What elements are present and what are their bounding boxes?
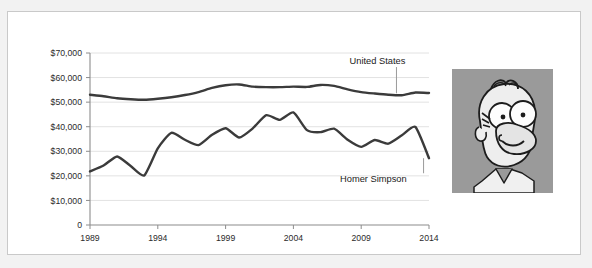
x-axis-labels: 198919941999200420092014	[80, 233, 438, 243]
y-axis-labels: 0$10,000$20,000$30,000$40,000$50,000$60,…	[51, 48, 83, 230]
x-tick-label: 2014	[419, 233, 438, 243]
x-tick-label: 1999	[216, 233, 235, 243]
y-tick-label: $60,000	[51, 73, 83, 83]
chart-card: 0$10,000$20,000$30,000$40,000$50,000$60,…	[7, 11, 581, 255]
annotation-united-states: United States	[350, 56, 406, 66]
homer-simpson-photo	[452, 69, 553, 193]
y-tick-label: 0	[77, 220, 82, 230]
x-tick-label: 1994	[148, 233, 167, 243]
y-tick-label: $10,000	[51, 196, 83, 206]
y-axis-ticks	[86, 53, 90, 225]
series-line-united-states	[90, 84, 429, 99]
annotation-homer-simpson: Homer Simpson	[340, 174, 407, 184]
y-tick-label: $70,000	[51, 48, 83, 58]
x-axis-ticks	[90, 225, 429, 229]
chart-svg: 0$10,000$20,000$30,000$40,000$50,000$60,…	[8, 12, 456, 256]
line-chart: 0$10,000$20,000$30,000$40,000$50,000$60,…	[8, 12, 456, 256]
series-line-homer-simpson	[90, 112, 429, 175]
x-tick-label: 1989	[80, 233, 99, 243]
y-tick-label: $50,000	[51, 97, 83, 107]
y-tick-label: $40,000	[51, 122, 83, 132]
homer-portrait-svg	[452, 69, 553, 193]
y-tick-label: $30,000	[51, 146, 83, 156]
y-tick-label: $20,000	[51, 171, 83, 181]
x-tick-label: 2004	[284, 233, 303, 243]
x-tick-label: 2009	[352, 233, 371, 243]
